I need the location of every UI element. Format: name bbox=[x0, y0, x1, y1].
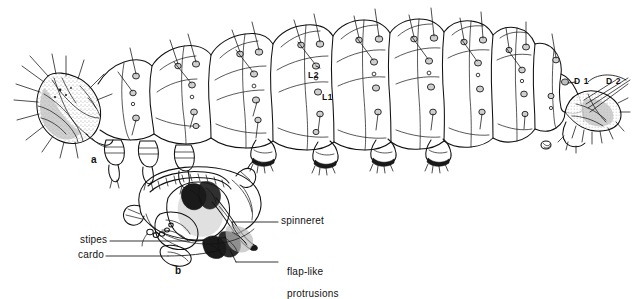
figure-label-b: b bbox=[175, 266, 181, 276]
head-capsule bbox=[14, 54, 113, 158]
label-seta-L2: L2 bbox=[308, 70, 319, 80]
callout-cardo: cardo bbox=[78, 250, 104, 260]
setae-and-pinacula bbox=[118, 8, 569, 138]
callout-stipes: stipes bbox=[80, 235, 107, 245]
abdominal-prolegs bbox=[250, 139, 451, 175]
panel-b-mouthparts bbox=[106, 161, 278, 266]
callout-flap-line2: protrusions bbox=[287, 288, 339, 299]
spiracle bbox=[427, 71, 431, 75]
figure-label-a: a bbox=[91, 155, 97, 165]
callout-flap-protrusions: flap-like protrusions bbox=[281, 255, 339, 299]
spiracle bbox=[252, 84, 256, 88]
spiracle bbox=[476, 73, 480, 77]
callout-flap-line1: flap-like bbox=[287, 266, 323, 277]
spiracle bbox=[372, 72, 376, 76]
label-seta-L1: L1 bbox=[322, 92, 333, 102]
spiracle bbox=[520, 79, 523, 82]
label-seta-D1: D 1 bbox=[574, 76, 589, 86]
seta-D1-pinaculum bbox=[561, 79, 568, 85]
callout-spinneret: spinneret bbox=[281, 216, 324, 226]
anal-segment bbox=[541, 78, 630, 153]
label-seta-D2: D 2 bbox=[606, 76, 621, 86]
